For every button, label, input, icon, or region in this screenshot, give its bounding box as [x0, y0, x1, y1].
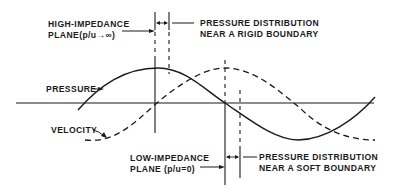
arrowhead [219, 165, 225, 169]
arrowhead [156, 21, 160, 25]
velocity-label-text: VELOCITY [51, 125, 97, 136]
soft-boundary-label-line1: PRESSURE DISTRIBUTION [259, 152, 378, 163]
arrowhead [164, 21, 168, 25]
pressure-curve [78, 68, 375, 140]
low-impedance-label: LOW-IMPEDANCE PLANE (p/u=0) [130, 153, 210, 174]
arrowhead [235, 155, 239, 159]
soft-boundary-label: PRESSURE DISTRIBUTION NEAR A SOFT BOUNDA… [259, 152, 378, 173]
rigid-boundary-label-line1: PRESSURE DISTRIBUTION [200, 18, 319, 29]
velocity-curve [85, 68, 375, 140]
low-impedance-label-line2: PLANE (p/u=0) [130, 164, 210, 175]
high-impedance-label: HIGH-IMPEDANCE PLANE(p/u→∞) [48, 19, 130, 40]
pressure-label: PRESSURE [46, 84, 96, 95]
arrowhead [149, 29, 155, 33]
pressure-label-text: PRESSURE [46, 84, 96, 95]
arrowhead [101, 132, 107, 138]
high-impedance-label-line2: PLANE(p/u→∞) [48, 30, 130, 41]
arrowhead [226, 155, 230, 159]
soft-boundary-label-line2: NEAR A SOFT BOUNDARY [259, 163, 378, 174]
low-impedance-label-line1: LOW-IMPEDANCE [130, 153, 210, 164]
rigid-boundary-label-line2: NEAR A RIGID BOUNDARY [200, 29, 319, 40]
rigid-boundary-label: PRESSURE DISTRIBUTION NEAR A RIGID BOUND… [200, 18, 319, 39]
velocity-label: VELOCITY [51, 125, 97, 136]
high-impedance-label-line1: HIGH-IMPEDANCE [48, 19, 130, 30]
